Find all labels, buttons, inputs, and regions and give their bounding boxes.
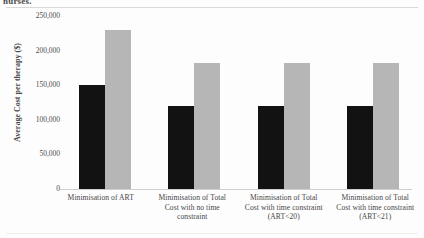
bar-group <box>60 16 150 189</box>
figure-top-rule <box>6 7 418 8</box>
x-tick-label-line: constraint <box>147 212 239 222</box>
x-tick-label: Minimisation of TotalCost with time cons… <box>330 193 422 222</box>
bar-group <box>239 16 329 189</box>
bar-light <box>105 30 131 189</box>
bar-light <box>284 63 310 189</box>
x-axis-line <box>60 189 412 190</box>
x-tick-label-line: (ART<20) <box>238 212 330 222</box>
x-tick-label-line: (ART<21) <box>330 212 422 222</box>
x-tick-label-line: Cost with time constraint <box>330 203 422 213</box>
x-tick-label-line: Minimisation of Total <box>330 193 422 203</box>
x-tick-label-line: Minimisation of Total <box>238 193 330 203</box>
y-tick-label: 50,000 <box>14 150 60 158</box>
bar-dark <box>347 106 373 189</box>
x-tick-label-line: Cost with no time <box>147 203 239 213</box>
bar-group <box>329 16 419 189</box>
bar-dark <box>168 106 194 189</box>
y-axis-ticks: 250,000200,000150,000100,00050,0000 <box>8 0 60 238</box>
figure-container: nurses. Average Cost per therapy ($) 250… <box>0 0 424 238</box>
x-tick-label-line: Minimisation of Total <box>147 193 239 203</box>
x-tick-label-line: Cost with time constraint <box>238 203 330 213</box>
x-tick-label: Minimisation of ART <box>55 193 147 203</box>
y-tick-label: 0 <box>14 185 60 193</box>
bar-light <box>373 63 399 189</box>
x-tick-label: Minimisation of TotalCost with no timeco… <box>147 193 239 222</box>
y-tick-label: 100,000 <box>14 116 60 124</box>
plot-area <box>60 16 418 189</box>
y-tick-label: 200,000 <box>14 47 60 55</box>
y-tick-label: 250,000 <box>14 12 60 20</box>
bar-light <box>194 63 220 189</box>
x-axis-labels: Minimisation of ARTMinimisation of Total… <box>55 193 421 238</box>
y-tick-label: 150,000 <box>14 81 60 89</box>
bar-group <box>150 16 240 189</box>
figure-bottom-rule <box>6 233 418 234</box>
x-tick-label-line: Minimisation of ART <box>55 193 147 203</box>
x-tick-label: Minimisation of TotalCost with time cons… <box>238 193 330 222</box>
bar-dark <box>258 106 284 189</box>
bar-dark <box>79 85 105 189</box>
